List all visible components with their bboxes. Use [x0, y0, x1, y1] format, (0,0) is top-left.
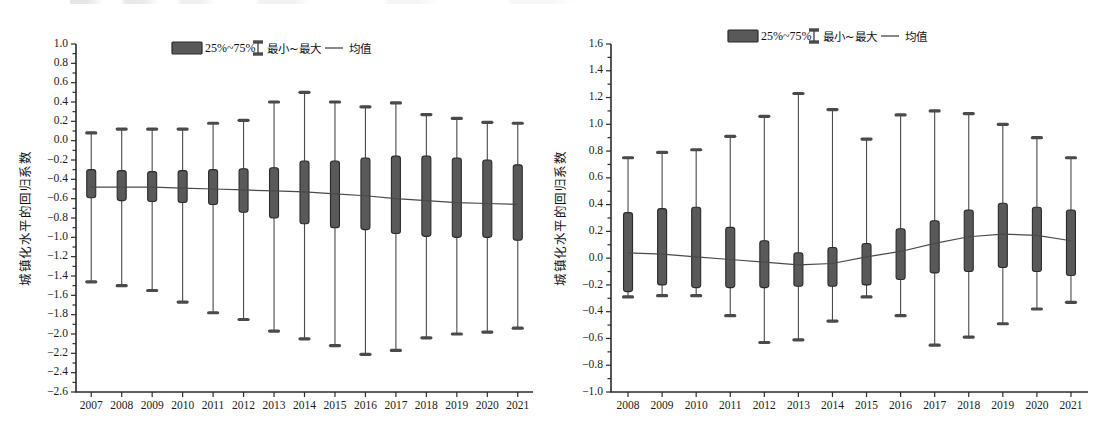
interquartile-box [117, 171, 126, 201]
x-tick-label: 2010 [171, 399, 194, 411]
interquartile-box [896, 229, 905, 280]
right-chart-svg: 1.61.41.21.00.80.60.40.20.0−0.2−0.4−0.6−… [543, 0, 1103, 440]
interquartile-box [964, 210, 973, 272]
left-chart-svg: 1.00.80.60.40.20.0−0.2−0.4−0.6−0.8−1.0−1… [0, 0, 552, 440]
y-tick-label: 1.0 [589, 117, 604, 129]
box-plot-item [239, 120, 248, 319]
interquartile-box [760, 241, 769, 288]
box-plot-item [422, 115, 431, 338]
y-tick-label: 0.8 [54, 56, 69, 68]
y-tick-label: −0.2 [582, 278, 603, 290]
x-tick-label: 2019 [991, 399, 1014, 411]
y-tick-label: −1.0 [47, 230, 68, 242]
right-chart-panel: 1.61.41.21.00.80.60.40.20.0−0.2−0.4−0.6−… [543, 0, 1103, 440]
y-tick-label: −1.0 [582, 385, 603, 397]
y-tick-label: −0.6 [582, 331, 603, 343]
x-tick-label: 2016 [354, 399, 377, 411]
box-plot-item [300, 92, 309, 339]
box-plot-item [896, 115, 905, 316]
box-plot-item [209, 123, 218, 312]
box-plot-item [513, 123, 522, 328]
box-plot-item [930, 111, 939, 345]
interquartile-box [483, 160, 492, 237]
legend-whisker-label: 最小~最大 [267, 42, 322, 56]
x-tick-label: 2010 [685, 399, 708, 411]
x-tick-label: 2008 [617, 399, 640, 411]
y-tick-label: −0.8 [582, 358, 603, 370]
interquartile-box [178, 171, 187, 203]
box-plot-item [330, 102, 339, 346]
interquartile-box [828, 247, 837, 286]
box-plot-item [391, 103, 400, 350]
box-plot-item [178, 129, 187, 302]
x-tick-label: 2015 [855, 399, 878, 411]
y-tick-label: 0.0 [54, 133, 69, 145]
x-tick-label: 2016 [889, 399, 912, 411]
interquartile-box [270, 168, 279, 218]
y-axis-title: 城镇化水平的回归系数 [553, 151, 568, 286]
interquartile-box [513, 165, 522, 240]
x-tick-label: 2017 [923, 399, 946, 411]
legend-box-swatch [172, 42, 202, 54]
chart-axes [611, 44, 1088, 392]
interquartile-box [862, 243, 871, 284]
interquartile-box [87, 170, 96, 198]
x-tick-label: 2007 [80, 399, 103, 411]
y-tick-label: 0.4 [54, 95, 69, 107]
box-plot-item [692, 150, 701, 296]
box-plot-item [361, 107, 370, 354]
box-plot-item [483, 122, 492, 332]
legend-mean-label: 均值 [905, 30, 928, 44]
interquartile-box [624, 213, 633, 292]
y-tick-label: −1.2 [47, 249, 68, 261]
figure-root: 1.00.80.60.40.20.0−0.2−0.4−0.6−0.8−1.0−1… [0, 0, 1103, 440]
box-plot-item [862, 139, 871, 297]
x-tick-label: 2020 [476, 399, 499, 411]
box-plot-item [658, 152, 667, 295]
y-axis-title: 城镇化水平的回归系数 [18, 151, 33, 286]
interquartile-box [391, 156, 400, 233]
x-tick-label: 2019 [445, 399, 468, 411]
y-tick-label: 0.6 [54, 75, 69, 87]
left-chart-panel: 1.00.80.60.40.20.0−0.2−0.4−0.6−0.8−1.0−1… [0, 0, 552, 440]
box-plot-item [1032, 138, 1041, 309]
x-tick-label: 2008 [110, 399, 133, 411]
x-tick-label: 2015 [323, 399, 346, 411]
y-tick-label: −0.2 [47, 153, 68, 165]
interquartile-box [998, 203, 1007, 267]
y-tick-label: 1.0 [54, 37, 69, 49]
legend-whisker-label: 最小~最大 [823, 30, 878, 44]
interquartile-box [422, 156, 431, 236]
legend-mean-label: 均值 [349, 42, 372, 56]
box-plot-item [998, 124, 1007, 323]
x-tick-label: 2020 [1025, 399, 1048, 411]
box-plot-item [726, 136, 735, 315]
x-tick-label: 2013 [787, 399, 810, 411]
y-tick-label: 1.6 [589, 37, 604, 49]
y-tick-label: 0.4 [589, 197, 604, 209]
x-tick-label: 2011 [719, 399, 742, 411]
x-tick-label: 2018 [415, 399, 438, 411]
box-plot-item [964, 114, 973, 338]
y-tick-label: −0.8 [47, 211, 68, 223]
x-tick-label: 2013 [263, 399, 286, 411]
box-plot-item [828, 110, 837, 321]
interquartile-box [452, 158, 461, 237]
y-tick-label: −2.4 [47, 365, 68, 377]
y-tick-label: −2.2 [47, 346, 68, 358]
box-plot-item [270, 102, 279, 331]
interquartile-box [658, 209, 667, 285]
y-tick-label: 1.4 [589, 63, 604, 75]
y-tick-label: −1.6 [47, 288, 68, 300]
y-tick-label: −0.4 [582, 304, 603, 316]
legend-box-swatch [728, 30, 758, 42]
y-tick-label: −1.8 [47, 307, 68, 319]
x-tick-label: 2012 [232, 399, 255, 411]
y-tick-label: 1.2 [589, 90, 604, 102]
legend-box-label: 25%~75% [205, 41, 255, 55]
x-tick-label: 2017 [384, 399, 407, 411]
box-plot-item [624, 158, 633, 297]
interquartile-box [1032, 207, 1041, 271]
y-tick-label: 0.6 [589, 170, 604, 182]
interquartile-box [1066, 210, 1075, 276]
